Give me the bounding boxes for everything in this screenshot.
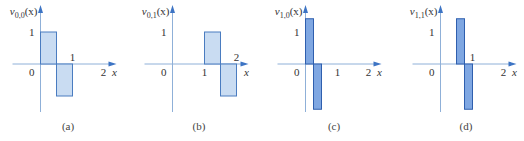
x-tick-label: 1 (470, 51, 476, 63)
wavelet-figure: v0,0(x)1012x(a)v0,1(x)1012x(b)v1,0(x)101… (0, 0, 524, 141)
function-label: v0,1(x) (142, 5, 170, 20)
bar-segment (41, 32, 57, 64)
origin-label: 0 (294, 66, 300, 78)
x-tick-label: 2 (366, 66, 372, 78)
panel-d: v1,1(x)1012x(d) (410, 5, 517, 133)
function-label-subscript: 0,0 (15, 11, 25, 20)
origin-label: 0 (429, 66, 435, 78)
panel-a: v0,0(x)1012x(a) (10, 5, 117, 133)
bar-segment (457, 19, 465, 64)
bar-segment (221, 64, 237, 96)
function-label: v1,1(x) (410, 5, 438, 20)
x-axis-label: x (243, 66, 249, 78)
panel-caption: (a) (62, 120, 75, 133)
function-label-arg: (x) (25, 5, 38, 18)
panel-caption: (d) (460, 120, 473, 133)
function-label-arg: (x) (425, 5, 438, 18)
y-tick-label: 1 (294, 26, 300, 38)
x-axis-label: x (111, 66, 117, 78)
x-tick-label: 1 (335, 66, 341, 78)
origin-label: 0 (161, 66, 167, 78)
function-label-subscript: 1,1 (415, 11, 425, 20)
function-label: v1,0(x) (275, 5, 303, 20)
bar-segment (57, 64, 73, 96)
function-label: v0,0(x) (10, 5, 38, 20)
y-axis-arrow-icon (170, 5, 175, 13)
x-tick-label: 2 (234, 51, 240, 63)
x-tick-label: 1 (70, 51, 76, 63)
y-axis-arrow-icon (438, 5, 443, 13)
panel-c: v1,0(x)1012x(c) (275, 5, 382, 133)
y-tick-label: 1 (161, 26, 167, 38)
bar-segment (205, 32, 221, 64)
x-tick-label: 2 (101, 66, 107, 78)
y-axis-arrow-icon (38, 5, 43, 13)
x-axis-label: x (376, 66, 382, 78)
y-tick-label: 1 (429, 26, 435, 38)
x-tick-label: 2 (501, 66, 507, 78)
panel-caption: (c) (328, 120, 341, 133)
function-label-subscript: 1,0 (280, 11, 290, 20)
origin-label: 0 (29, 66, 35, 78)
function-label-arg: (x) (157, 5, 170, 18)
bar-segment (465, 64, 473, 109)
y-tick-label: 1 (29, 26, 35, 38)
bar-segment (314, 64, 322, 109)
bar-segment (306, 19, 314, 64)
x-axis-label: x (511, 66, 517, 78)
panel-caption: (b) (193, 120, 206, 133)
y-axis-arrow-icon (303, 5, 308, 13)
panel-b: v0,1(x)1012x(b) (142, 5, 249, 133)
x-tick-label: 1 (202, 66, 208, 78)
function-label-subscript: 0,1 (147, 11, 157, 20)
function-label-arg: (x) (290, 5, 303, 18)
